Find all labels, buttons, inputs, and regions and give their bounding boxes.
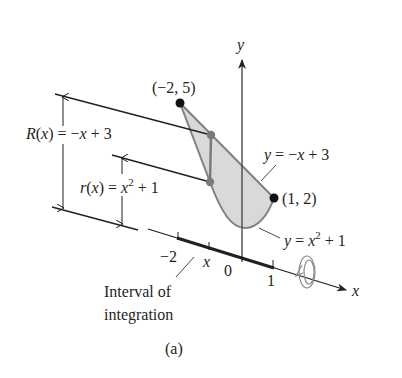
rotation-icon — [296, 256, 315, 288]
curve-label-linear: y = −x + 3 — [262, 146, 329, 164]
point-label-1-2: (1, 2) — [282, 190, 317, 208]
tick-label-x: x — [202, 253, 210, 270]
interval-label-line1: Interval of — [104, 283, 172, 300]
x-axis-label: x — [351, 282, 359, 299]
axis-extension-left — [52, 207, 138, 230]
point-inner-radius — [206, 178, 214, 186]
curve-label-parabola: y = x2 + 1 — [282, 229, 346, 250]
interval-label-line2: integration — [104, 306, 173, 324]
point-label-neg2-5: (−2, 5) — [152, 79, 196, 97]
figure-caption: (a) — [165, 340, 183, 358]
point-neg2-5 — [176, 99, 185, 108]
point-outer-radius — [207, 131, 215, 139]
leader-line-lower-curve — [259, 228, 280, 238]
origin-label: 0 — [224, 262, 232, 279]
y-axis-label: y — [235, 36, 245, 54]
leader-line-upper-curve — [261, 165, 276, 181]
washer-method-diagram: y x −2 x 0 1 (−2, 5) (1, 2) y = −x + 3 y… — [0, 0, 402, 378]
washer-segment — [210, 135, 211, 182]
inner-radius-label: r(x) = x2 + 1 — [80, 176, 159, 197]
tick-label-neg2: −2 — [160, 248, 177, 265]
tick-label-1: 1 — [267, 272, 275, 289]
shaded-region — [180, 103, 274, 228]
point-1-2 — [270, 194, 279, 203]
outer-radius-label: R(x) = −x + 3 — [25, 125, 112, 143]
inner-radius-guide — [112, 155, 210, 182]
leader-line-interval — [176, 257, 194, 277]
